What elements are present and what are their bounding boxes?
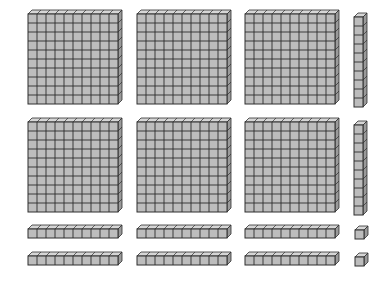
hundred-flat bbox=[245, 10, 340, 105]
ten-rod bbox=[137, 225, 232, 239]
ten-rod bbox=[354, 121, 368, 216]
ten-rod bbox=[28, 252, 123, 266]
ten-rod bbox=[245, 225, 340, 239]
hundred-flat bbox=[28, 10, 123, 105]
ten-rod bbox=[354, 13, 368, 108]
ten-rod bbox=[245, 252, 340, 266]
hundred-flat bbox=[28, 118, 123, 213]
unit-cube bbox=[355, 226, 369, 240]
hundred-flat bbox=[137, 118, 232, 213]
ten-rod bbox=[137, 252, 232, 266]
hundred-flat bbox=[137, 10, 232, 105]
unit-cube bbox=[355, 253, 369, 267]
ten-rod bbox=[28, 225, 123, 239]
hundred-flat bbox=[245, 118, 340, 213]
